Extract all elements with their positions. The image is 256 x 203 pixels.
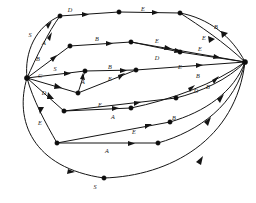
node-n3[interactable] [178, 11, 182, 15]
edge-label-e21: A [110, 113, 115, 120]
edge-e29-arrowhead [196, 156, 203, 165]
node-n4[interactable] [68, 44, 72, 48]
edge-e17[interactable] [78, 70, 136, 93]
graph-figure: S A D E B E B B E E D S B E C A E D E D … [0, 0, 256, 203]
edge-e15-arrowhead [54, 83, 62, 89]
edge-label-e8: B [95, 35, 99, 42]
edge-e24-arrowhead [145, 124, 152, 129]
edge-e7-arrowhead [50, 55, 57, 62]
edge-label-e11: D [154, 54, 160, 61]
edge-label-e9: E [154, 37, 159, 44]
edge-e28-path [23, 78, 104, 178]
node-n2[interactable] [117, 10, 121, 14]
edge-label-e18: D [41, 89, 47, 96]
edge-label-e5: B [214, 23, 218, 30]
edge-e15-path [27, 78, 78, 93]
edge-e4-path [119, 12, 180, 13]
node-n13[interactable] [55, 141, 59, 145]
edge-label-e26: B [206, 83, 210, 90]
edge-e17-arrowhead [118, 73, 125, 80]
edge-label-e24: E [131, 128, 136, 135]
edge-e4-arrowhead [152, 10, 159, 15]
edge-e6[interactable] [180, 13, 245, 62]
edge-e27-path [158, 62, 245, 143]
edge-label-e2: A [41, 39, 46, 46]
node-n16[interactable] [102, 176, 106, 180]
edge-e11-path [131, 42, 245, 62]
edge-e13-arrowhead [120, 68, 127, 73]
node-R[interactable] [242, 59, 247, 64]
edge-label-e19: E [97, 101, 102, 108]
edge-e27[interactable] [158, 62, 245, 143]
edge-label-e20: D [193, 87, 199, 94]
node-L[interactable] [24, 75, 29, 80]
edge-e26-arrowhead [217, 94, 224, 103]
edge-e11[interactable] [131, 42, 245, 62]
edge-label-e17: E [107, 75, 112, 82]
edge-e8[interactable] [70, 41, 131, 46]
node-n5[interactable] [129, 40, 133, 44]
edge-e3-arrowhead [82, 12, 89, 17]
graph-canvas: S A D E B E B B E E D S B E C A E D E D … [0, 0, 256, 203]
node-n12[interactable] [174, 96, 178, 100]
node-n11[interactable] [129, 106, 133, 110]
node-n8[interactable] [134, 68, 138, 72]
edge-label-e4: E [140, 5, 145, 12]
edge-e23[interactable] [27, 78, 57, 143]
edge-e17-path [78, 70, 136, 93]
node-n1[interactable] [58, 14, 62, 18]
edge-label-e6: E [201, 34, 206, 41]
edge-label-e16: A [80, 78, 85, 85]
node-n6[interactable] [178, 50, 182, 54]
edge-e28[interactable] [23, 78, 104, 178]
edge-label-e25: A [104, 147, 109, 154]
node-n10[interactable] [62, 109, 66, 113]
edge-label-e22: B [196, 72, 200, 79]
edge-e5[interactable] [180, 13, 245, 62]
edge-e15[interactable] [27, 78, 78, 93]
edge-e21[interactable] [64, 98, 176, 111]
edge-e5-path [180, 13, 245, 62]
edge-e12-arrowhead [64, 71, 71, 76]
node-n9[interactable] [76, 91, 80, 95]
edge-e4[interactable] [119, 10, 180, 15]
edge-e26-path [170, 62, 245, 122]
edge-e18-arrowhead [47, 92, 54, 99]
edge-e25-arrowhead [128, 141, 135, 146]
edge-e6-path [180, 13, 245, 62]
edge-label-e13: B [108, 63, 112, 70]
edge-label-e12: S [53, 65, 56, 72]
edge-label-e7: B [36, 55, 40, 62]
node-n7[interactable] [83, 69, 87, 73]
edge-e26[interactable] [170, 62, 245, 122]
edge-e6-arrowhead [208, 36, 215, 43]
edge-label-e1: S [28, 31, 31, 38]
edge-layer [23, 10, 245, 178]
node-layer [24, 10, 247, 180]
edge-e25[interactable] [57, 141, 158, 146]
edge-e24-path [57, 122, 170, 143]
edge-label-e23: E [37, 119, 42, 126]
edge-e14-path [136, 62, 245, 70]
edge-label-e14: E [177, 63, 182, 70]
edge-label-e28: S [93, 183, 96, 190]
edge-e8-arrowhead [106, 41, 113, 46]
edge-e14[interactable] [136, 62, 245, 70]
edge-e8-path [70, 42, 131, 46]
edge-label-e3: D [67, 6, 73, 13]
edge-e21-path [64, 98, 176, 111]
node-n15[interactable] [156, 141, 160, 145]
edge-e24[interactable] [57, 122, 170, 143]
edge-label-e27: B [172, 114, 176, 121]
edge-label-e10: E [197, 45, 202, 52]
